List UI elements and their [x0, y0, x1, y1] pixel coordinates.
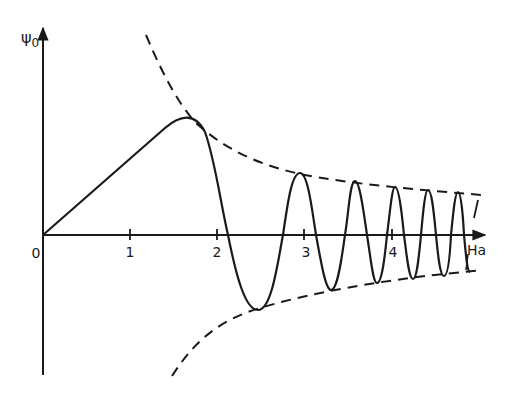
- x-tick-label-2: 2: [213, 245, 222, 259]
- x-tick-label-1: 1: [126, 245, 135, 259]
- x-axis-label: Ha: [467, 243, 486, 257]
- upper-envelope-curve: [146, 35, 482, 195]
- x-tick-label-0: 0: [32, 246, 41, 260]
- x-tick-label-4: 4: [389, 245, 398, 259]
- psi-curve: [43, 118, 470, 310]
- plot-area: [0, 0, 507, 396]
- y-axis-label: ψ0: [21, 30, 39, 49]
- x-tick-label-3: 3: [302, 245, 311, 259]
- bracket-mark: [474, 200, 478, 218]
